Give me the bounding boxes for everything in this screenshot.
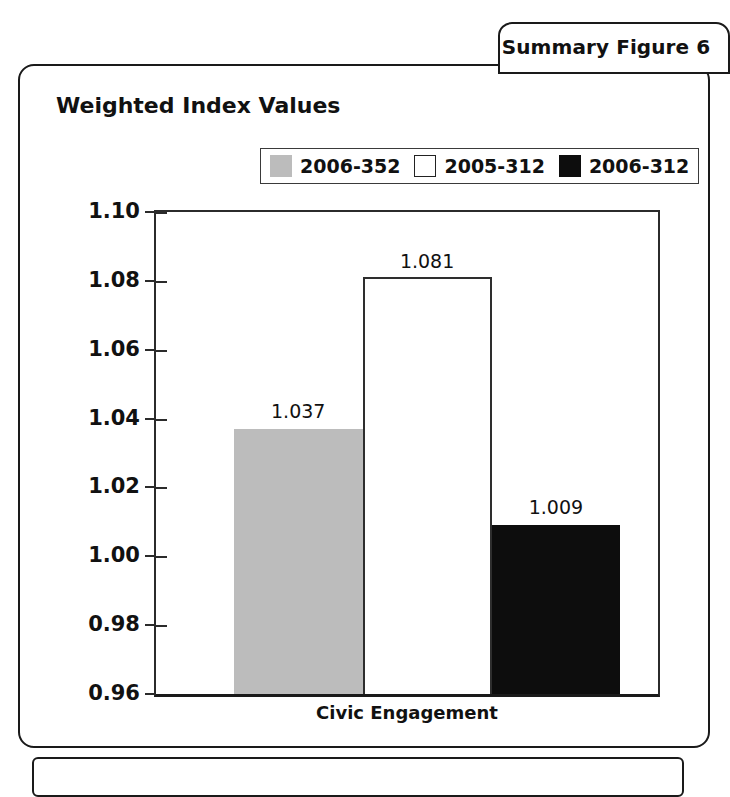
y-axis-inner-tick-mark (156, 487, 167, 489)
legend-item: 2006-312 (559, 155, 689, 177)
legend-item: 2006-352 (270, 155, 400, 177)
bar-2006-352: 1.037 (234, 429, 363, 694)
y-axis-tick-label: 1.08 (88, 268, 140, 292)
plot-area: 1.101.081.061.041.021.000.980.961.0371.0… (154, 210, 660, 697)
y-axis-tick-mark (145, 418, 156, 420)
summary-figure-tab-label: Summary Figure 6 (500, 35, 712, 59)
y-axis-inner-tick-mark (156, 625, 167, 627)
y-axis-inner-tick-mark (156, 419, 167, 421)
legend-item: 2005-312 (414, 155, 544, 177)
legend-swatch-black (559, 155, 581, 177)
y-axis-tick-label: 1.10 (88, 199, 140, 223)
y-axis-tick-mark (145, 280, 156, 282)
legend-swatch-gray (270, 155, 292, 177)
y-axis-tick-label: 1.04 (88, 406, 140, 430)
bar-value-label: 1.081 (365, 250, 490, 272)
legend-label: 2005-312 (444, 155, 544, 177)
y-axis-tick-mark (145, 486, 156, 488)
chart-legend: 2006-3522005-3122006-312 (260, 148, 699, 184)
legend-swatch-white (414, 155, 436, 177)
chart-title: Weighted Index Values (56, 93, 340, 118)
bar-value-label: 1.037 (234, 400, 363, 422)
y-axis-tick-label: 1.02 (88, 474, 140, 498)
y-axis-tick-mark (145, 624, 156, 626)
y-axis-inner-tick-mark (156, 556, 167, 558)
y-axis-tick-mark (145, 555, 156, 557)
y-axis-inner-tick-mark (156, 212, 167, 214)
next-figure-panel (32, 757, 684, 797)
y-axis-tick-label: 0.98 (88, 612, 140, 636)
legend-label: 2006-352 (300, 155, 400, 177)
y-axis-tick-label: 0.96 (88, 681, 140, 705)
y-axis-inner-tick-mark (156, 350, 167, 352)
x-axis-category-label: Civic Engagement (154, 702, 660, 723)
y-axis-tick-label: 1.00 (88, 543, 140, 567)
figure-panel: Weighted Index Values 2006-3522005-31220… (18, 64, 710, 748)
y-axis-tick-mark (145, 349, 156, 351)
bar-2006-312: 1.009 (492, 525, 621, 694)
bar-value-label: 1.009 (492, 496, 621, 518)
y-axis-tick-label: 1.06 (88, 337, 140, 361)
legend-label: 2006-312 (589, 155, 689, 177)
tab-panel-merge (500, 62, 728, 69)
bar-2005-312: 1.081 (363, 277, 492, 694)
y-axis-tick-mark (145, 693, 156, 695)
y-axis-inner-tick-mark (156, 281, 167, 283)
y-axis-tick-mark (145, 211, 156, 213)
